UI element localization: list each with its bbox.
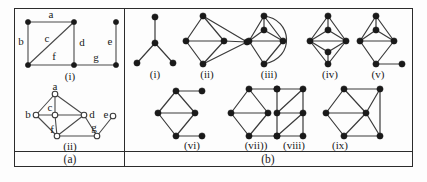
subfigure-b-iv: (iv) (307, 13, 349, 81)
node-b-viii-tr (300, 86, 306, 92)
node-b-v-center (373, 27, 379, 33)
edge-b-vi-r-b (176, 113, 195, 136)
edge-b-ii-t-r (203, 16, 224, 41)
edge-b-v-l-b (360, 41, 376, 64)
node-b-vii-right (265, 110, 271, 116)
node-b-vi-top (173, 88, 179, 94)
subfigure-b-i: (i) (134, 14, 176, 81)
vertex-label-b: b (25, 108, 31, 120)
subfigure-b-ii: (ii) (183, 13, 250, 81)
edge-b-vi-t-r (176, 91, 195, 113)
node-b-iii-bottom (261, 61, 267, 67)
node-a-i-top-mid (71, 19, 76, 24)
node-b-viii-tl (274, 86, 280, 92)
node-b-ix-left (323, 110, 329, 116)
node-b-v-left (357, 38, 363, 44)
edge-b-ix-t-c (344, 89, 366, 113)
figure-root: a b c d e f g (i) a b c d e (0, 0, 427, 182)
caption-b-iv: (iv) (322, 68, 338, 81)
node-b-v-right (391, 38, 397, 44)
subfigure-b-vi: (vi) (155, 88, 205, 152)
panel-caption-a: (a) (64, 153, 77, 166)
node-a-i-bottom-left (25, 62, 30, 67)
node-b-iv-right (343, 38, 349, 44)
node-b-viii-mr (300, 110, 306, 116)
subfigure-b-iii: (iii) (246, 13, 287, 81)
edge-b-ix-c-br (366, 113, 380, 136)
node-b-i-top (152, 14, 158, 20)
caption-b-vii: (vii)) (245, 139, 268, 152)
subfigure-b-vii: (vii)) (228, 86, 280, 152)
edge-b-vii-t-l (231, 89, 249, 113)
node-a-i-bottom-mid (71, 62, 76, 67)
vertex-label-a: a (53, 80, 58, 92)
node-a-ii-a (52, 91, 58, 97)
graph-figure: a b c d e f g (i) a b c d e (0, 0, 427, 182)
node-b-iv-center-upper (325, 27, 331, 33)
edge-b-ii-r-b (203, 41, 224, 64)
panel-caption-b: (b) (261, 153, 275, 166)
caption-b-ix: (ix) (332, 139, 348, 152)
node-b-ii-bottom (200, 61, 206, 67)
edge-a-ii-b-f (36, 115, 57, 136)
node-b-iv-left (307, 38, 313, 44)
edge-b-i-right (155, 43, 173, 63)
node-b-iii-center (261, 27, 267, 33)
node-b-iii-top (261, 13, 267, 19)
node-b-ix-top (341, 86, 347, 92)
node-a-ii-b (33, 112, 39, 118)
vertex-label-d: d (89, 108, 95, 120)
node-a-ii-f (54, 133, 60, 139)
vertex-label-f: f (50, 123, 54, 135)
node-b-i-center (152, 40, 158, 46)
node-b-vi-right (192, 110, 198, 116)
node-b-i-leaf-right (170, 60, 176, 66)
caption-b-vi: (vi) (184, 139, 200, 152)
node-b-iii-right (280, 38, 286, 44)
edge-b-ix-t-l (326, 89, 344, 113)
edge-b-ii-t-l (186, 16, 203, 41)
node-b-i-leaf-left (134, 60, 140, 66)
edge-b-i-left (137, 43, 155, 63)
edge-b-iii-l-b (249, 41, 264, 64)
caption-b-iii: (iii) (261, 68, 278, 81)
edge-b-v-r-b (376, 41, 394, 64)
edge-b-vi-t-l (158, 91, 176, 113)
node-b-vii-top (246, 86, 252, 92)
subfigure-a-i: a b c d e f g (i) (18, 8, 118, 83)
node-b-vi-left (155, 110, 161, 116)
node-b-iii-left (246, 38, 252, 44)
subfigure-a-ii: a b c d e f g (ii) (25, 80, 116, 153)
node-b-vi-bottom (173, 133, 179, 139)
edge-b-vii-t-r (249, 89, 268, 113)
edge-b-ix-l-b (326, 113, 344, 136)
edge-a-ii-a-d (55, 94, 84, 115)
node-a-i-top-right (113, 19, 118, 24)
node-b-ix-bottom-right (377, 133, 383, 139)
subfigure-b-ix: (ix) (323, 86, 383, 152)
edge-b-vi-l-b (158, 113, 176, 136)
node-a-i-top-left (25, 19, 30, 24)
vertex-label-e: e (104, 108, 109, 120)
edge-b-ii-b-x (203, 42, 247, 64)
edge-label-c: c (45, 32, 50, 44)
edge-b-ix-c-tr (366, 89, 380, 113)
subfigure-b-v: (v) (357, 13, 405, 81)
node-a-ii-d (81, 112, 87, 118)
edge-label-f: f (52, 50, 56, 62)
vertex-label-c: c (48, 101, 53, 113)
edge-b-ii-l-b (186, 41, 203, 64)
caption-b-v: (v) (372, 68, 385, 81)
node-b-v-pendant (399, 61, 405, 67)
edge-b-ii-r-x (224, 41, 247, 42)
caption-a-ii: (ii) (63, 140, 77, 153)
node-a-ii-e (110, 113, 116, 119)
edge-label-d: d (79, 36, 85, 48)
edge-label-b: b (18, 35, 24, 47)
node-b-iv-bottom (325, 61, 331, 67)
edge-label-g: g (93, 51, 99, 63)
node-b-ii-left (183, 38, 189, 44)
edge-b-viii-diag-lower (277, 113, 303, 136)
caption-b-ii: (ii) (200, 68, 214, 81)
node-b-viii-bl (274, 133, 280, 139)
